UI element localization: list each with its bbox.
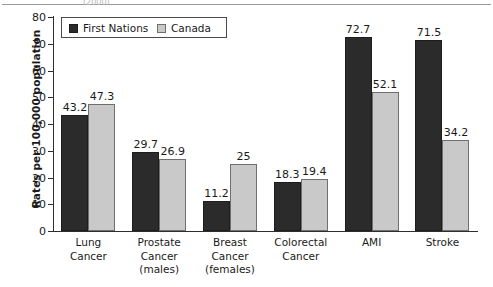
bar-prostate-cancer-males-canada <box>159 159 186 231</box>
y-tick-30 <box>48 151 53 152</box>
top-border-artifact <box>2 4 491 5</box>
y-tick-20 <box>48 178 53 179</box>
bar-ami-first-nations <box>345 37 372 231</box>
bar-value-label-ami-first-nations: 72.7 <box>338 24 378 35</box>
legend-label-first-nations: First Nations <box>83 23 148 34</box>
y-tick-label-20: 20 <box>6 173 46 184</box>
bar-breast-cancer-females-canada <box>230 164 257 231</box>
bar-value-label-breast-cancer-females-canada: 25 <box>224 151 264 162</box>
y-tick-label-70: 70 <box>6 39 46 50</box>
cropped-title-artifact: (2000) <box>83 0 119 5</box>
bar-value-label-lung-cancer-canada: 47.3 <box>82 91 122 102</box>
chart-legend: First Nations Canada <box>61 17 227 38</box>
y-tick-0 <box>48 231 53 232</box>
bar-stroke-canada <box>442 140 469 231</box>
y-tick-80 <box>48 17 53 18</box>
legend-item-canada: Canada <box>157 22 211 35</box>
y-tick-label-0: 0 <box>6 226 46 237</box>
y-tick-label-30: 30 <box>6 146 46 157</box>
bar-ami-canada <box>372 92 399 231</box>
bar-lung-cancer-canada <box>88 104 115 231</box>
chart-figure: (2000) Rates per 100,000 population 0102… <box>0 0 493 287</box>
y-axis-line <box>53 16 54 232</box>
bar-value-label-prostate-cancer-males-canada: 26.9 <box>153 146 193 157</box>
bar-value-label-stroke-canada: 34.2 <box>436 127 476 138</box>
y-tick-label-80: 80 <box>6 12 46 23</box>
y-tick-40 <box>48 124 53 125</box>
bar-prostate-cancer-males-first-nations <box>132 152 159 231</box>
y-tick-label-50: 50 <box>6 92 46 103</box>
y-tick-label-60: 60 <box>6 66 46 77</box>
x-axis-label-stroke: Stroke <box>399 236 486 250</box>
y-tick-10 <box>48 204 53 205</box>
y-tick-label-10: 10 <box>6 199 46 210</box>
legend-swatch-icon-canada <box>157 24 166 33</box>
legend-item-first-nations: First Nations <box>69 22 148 35</box>
bar-breast-cancer-females-first-nations <box>203 201 230 231</box>
bar-value-label-stroke-first-nations: 71.5 <box>409 27 449 38</box>
legend-label-canada: Canada <box>171 23 211 34</box>
bar-value-label-ami-canada: 52.1 <box>365 79 405 90</box>
y-tick-label-40: 40 <box>6 119 46 130</box>
y-tick-50 <box>48 97 53 98</box>
y-tick-60 <box>48 71 53 72</box>
bar-colorectal-cancer-first-nations <box>274 182 301 231</box>
x-axis-line <box>53 231 478 232</box>
bar-value-label-colorectal-cancer-canada: 19.4 <box>294 166 334 177</box>
bar-lung-cancer-first-nations <box>61 115 88 231</box>
legend-swatch-icon-first-nations <box>69 24 78 33</box>
bar-colorectal-cancer-canada <box>301 179 328 231</box>
y-tick-70 <box>48 44 53 45</box>
